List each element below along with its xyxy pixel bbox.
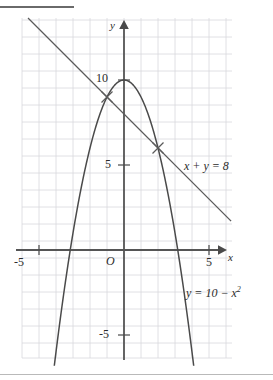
parabola-equation-exponent: 2 bbox=[237, 285, 241, 294]
graph-figure: y x O 10 5 -5 -5 5 x + y = 8 y = 10 − x2 bbox=[0, 0, 273, 380]
x-tick-label-neg5: -5 bbox=[14, 256, 24, 268]
y-tick-label-10: 10 bbox=[96, 72, 108, 84]
origin-label: O bbox=[106, 255, 115, 267]
x-axis-label: x bbox=[228, 252, 233, 263]
y-tick-label-5: 5 bbox=[105, 158, 111, 170]
coordinate-plane bbox=[0, 0, 273, 380]
line-equation-label: x + y = 8 bbox=[184, 160, 229, 172]
parabola-equation-text: y = 10 − x bbox=[186, 286, 237, 300]
y-axis-label: y bbox=[110, 20, 115, 31]
grid-lines bbox=[22, 18, 232, 358]
top-rule bbox=[0, 6, 74, 8]
straight-line bbox=[28, 18, 231, 221]
parabola-equation-label: y = 10 − x2 bbox=[186, 286, 241, 299]
bottom-rule bbox=[0, 374, 273, 375]
x-tick-label-5: 5 bbox=[206, 256, 212, 268]
y-tick-label-neg5: -5 bbox=[99, 328, 109, 340]
x-axis bbox=[16, 245, 227, 255]
